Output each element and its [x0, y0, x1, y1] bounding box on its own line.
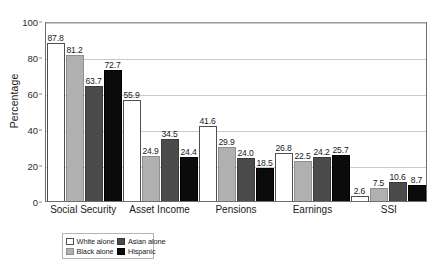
y-tick-mark	[39, 130, 42, 131]
bar-value-label: 7.5	[373, 178, 384, 188]
bar-value-label: 63.7	[86, 76, 102, 86]
legend-item[interactable]: Hispanic	[117, 246, 165, 256]
bar[interactable]: 87.8	[47, 43, 65, 201]
x-axis-label: Pensions	[198, 204, 274, 215]
bar-group: 87.881.263.772.7	[46, 23, 122, 201]
bar[interactable]: 55.9	[123, 100, 141, 201]
bar-slot: 24.9	[142, 23, 160, 201]
x-axis-label: Asset Income	[121, 204, 197, 215]
bar-value-label: 81.2	[67, 45, 83, 55]
bar[interactable]: 24.9	[142, 156, 160, 201]
legend-label: Asian alone	[128, 237, 166, 246]
plot-area: 87.881.263.772.755.924.934.524.441.629.9…	[45, 22, 427, 202]
bar-slot: 24.4	[180, 23, 198, 201]
legend: White aloneAsian aloneBlack aloneHispani…	[62, 233, 154, 259]
bar-value-label: 18.5	[257, 158, 273, 168]
bar-value-label: 72.7	[105, 60, 121, 70]
bar[interactable]: 18.5	[256, 168, 274, 201]
bar[interactable]: 24.4	[180, 157, 198, 201]
bar[interactable]: 81.2	[66, 55, 84, 201]
bar-slot: 7.5	[370, 23, 388, 201]
bar-group: 55.924.934.524.4	[122, 23, 198, 201]
x-axis-label: Social Security	[45, 204, 121, 215]
y-tick-mark	[39, 22, 42, 23]
bar-value-label: 10.6	[390, 172, 406, 182]
legend-swatch-icon	[66, 238, 74, 245]
legend-swatch-icon	[117, 248, 125, 255]
bar-chart: Percentage 100806040200 87.881.263.772.7…	[0, 0, 445, 272]
bar-group: 26.822.524.225.7	[274, 23, 350, 201]
bar-slot: 24.2	[313, 23, 331, 201]
bar-slot: 8.7	[408, 23, 426, 201]
y-tick-mark	[39, 94, 42, 95]
legend-item[interactable]: Black alone	[66, 246, 114, 256]
legend-item[interactable]: Asian alone	[117, 236, 165, 246]
bar[interactable]: 8.7	[408, 185, 426, 201]
y-axis-ticks: 100806040200	[20, 22, 42, 202]
bar-group: 2.67.510.68.7	[350, 23, 426, 201]
bar-slot: 41.6	[199, 23, 217, 201]
legend-item[interactable]: White alone	[66, 236, 114, 246]
bar-value-label: 24.0	[238, 148, 254, 158]
y-tick-mark	[39, 166, 42, 167]
x-axis-label: SSI	[351, 204, 427, 215]
bar[interactable]: 26.8	[275, 153, 293, 201]
bar-value-label: 34.5	[162, 129, 178, 139]
bar-slot: 29.9	[218, 23, 236, 201]
x-axis-labels: Social SecurityAsset IncomePensionsEarni…	[45, 204, 427, 215]
y-axis-title-text: Percentage	[8, 74, 20, 129]
bar-slot: 63.7	[85, 23, 103, 201]
bar-slot: 2.6	[351, 23, 369, 201]
bar-slot: 55.9	[123, 23, 141, 201]
bar[interactable]: 2.6	[351, 196, 369, 201]
bar-value-label: 87.8	[48, 33, 64, 43]
legend-swatch-icon	[66, 248, 74, 255]
bar-value-label: 24.2	[314, 147, 330, 157]
bar-value-label: 41.6	[200, 116, 216, 126]
bar-group: 41.629.924.018.5	[198, 23, 274, 201]
legend-label: Black alone	[77, 247, 114, 256]
bar-groups: 87.881.263.772.755.924.934.524.441.629.9…	[46, 23, 426, 201]
y-tick-label: 60	[27, 89, 38, 100]
bar[interactable]: 63.7	[85, 86, 103, 201]
bar[interactable]: 10.6	[389, 182, 407, 201]
bar-slot: 24.0	[237, 23, 255, 201]
y-tick-label: 80	[27, 53, 38, 64]
bar-slot: 34.5	[161, 23, 179, 201]
bar[interactable]: 29.9	[218, 147, 236, 201]
bar-value-label: 22.5	[295, 151, 311, 161]
bar-slot: 25.7	[332, 23, 350, 201]
bar[interactable]: 22.5	[294, 161, 312, 202]
bar[interactable]: 41.6	[199, 126, 217, 201]
y-tick-label: 40	[27, 125, 38, 136]
legend-label: White alone	[77, 237, 115, 246]
bar-value-label: 24.4	[181, 147, 197, 157]
bar-value-label: 24.9	[143, 146, 159, 156]
y-tick-label: 0	[33, 197, 38, 208]
bar-value-label: 29.9	[219, 137, 235, 147]
y-tick-mark	[39, 58, 42, 59]
y-tick-label: 20	[27, 161, 38, 172]
bar[interactable]: 24.0	[237, 158, 255, 201]
bar-value-label: 25.7	[333, 145, 349, 155]
bar[interactable]: 34.5	[161, 139, 179, 201]
bar-value-label: 8.7	[411, 175, 422, 185]
bar-value-label: 2.6	[354, 186, 365, 196]
legend-swatch-icon	[117, 238, 125, 245]
legend-label: Hispanic	[128, 247, 156, 256]
bar-slot: 22.5	[294, 23, 312, 201]
bar-value-label: 55.9	[124, 90, 140, 100]
bar[interactable]: 72.7	[104, 70, 122, 201]
bar-slot: 18.5	[256, 23, 274, 201]
x-axis-label: Earnings	[274, 204, 350, 215]
bar-slot: 72.7	[104, 23, 122, 201]
bar-slot: 26.8	[275, 23, 293, 201]
bar-slot: 87.8	[47, 23, 65, 201]
bar-value-label: 26.8	[276, 143, 292, 153]
bar[interactable]: 24.2	[313, 157, 331, 201]
bar[interactable]: 7.5	[370, 188, 388, 202]
y-tick-label: 100	[22, 17, 38, 28]
y-tick-mark	[39, 202, 42, 203]
bar-slot: 10.6	[389, 23, 407, 201]
bar[interactable]: 25.7	[332, 155, 350, 201]
